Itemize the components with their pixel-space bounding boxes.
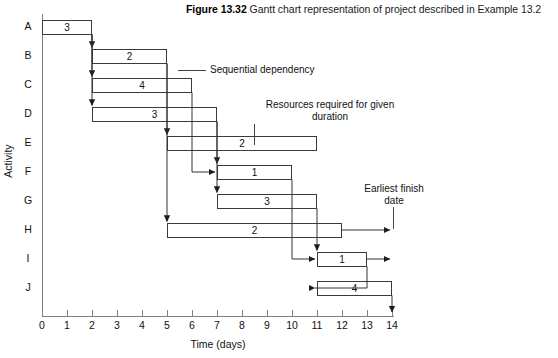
x-tick-6 xyxy=(192,310,193,316)
x-tick-13 xyxy=(367,310,368,316)
x-tick-label-9: 9 xyxy=(255,319,279,331)
x-tick-9 xyxy=(267,310,268,316)
x-tick-label-5: 5 xyxy=(155,319,179,331)
x-tick-label-1: 1 xyxy=(55,319,79,331)
y-axis-title: Activity xyxy=(2,131,14,191)
activity-label-d: D xyxy=(20,107,36,119)
gantt-bar-resources-g: 3 xyxy=(218,195,316,208)
earliest-finish-line1: Earliest finish xyxy=(364,183,423,194)
gantt-bar-c[interactable]: 4 xyxy=(92,78,192,93)
gantt-bar-f[interactable]: 1 xyxy=(217,165,292,180)
gantt-bar-h[interactable]: 2 xyxy=(167,223,342,238)
x-axis-title: Time (days) xyxy=(0,338,436,350)
resources-required-line2: duration xyxy=(312,111,348,122)
sequential-dependency-label: Sequential dependency xyxy=(210,64,315,75)
gantt-bar-resources-d: 3 xyxy=(93,108,216,121)
activity-label-c: C xyxy=(20,78,36,90)
earliest-finish-label: Earliest finish date xyxy=(343,183,445,207)
x-tick-label-2: 2 xyxy=(80,319,104,331)
resources-required-line1: Resources required for given xyxy=(266,99,394,110)
x-tick-label-10: 10 xyxy=(280,319,304,331)
x-tick-0 xyxy=(42,310,43,316)
x-tick-11 xyxy=(317,310,318,316)
gantt-bar-d[interactable]: 3 xyxy=(92,107,217,122)
x-tick-12 xyxy=(342,310,343,316)
activity-label-g: G xyxy=(20,194,36,206)
resources-required-label: Resources required for given duration xyxy=(246,99,414,123)
x-tick-label-8: 8 xyxy=(230,319,254,331)
gantt-bar-resources-c: 4 xyxy=(93,79,191,92)
gantt-bar-a[interactable]: 3 xyxy=(42,20,92,35)
plot-area: Activity Time (days) 0123456789101112131… xyxy=(0,0,558,358)
x-tick-2 xyxy=(92,310,93,316)
x-tick-4 xyxy=(142,310,143,316)
x-tick-3 xyxy=(117,310,118,316)
x-axis-line xyxy=(42,316,394,317)
gantt-bar-b[interactable]: 2 xyxy=(92,49,167,64)
gantt-bar-j[interactable]: 4 xyxy=(317,281,392,296)
gantt-figure: Figure 13.32 Gantt chart representation … xyxy=(0,0,558,358)
x-tick-label-14: 14 xyxy=(380,319,404,331)
x-tick-label-7: 7 xyxy=(205,319,229,331)
sequential-dependency-leader xyxy=(178,70,206,71)
gantt-bar-resources-j: 4 xyxy=(318,282,391,295)
link-c-f xyxy=(192,93,215,173)
activity-label-j: J xyxy=(20,281,36,293)
earliest-finish-line2: date xyxy=(384,195,403,206)
gantt-bar-resources-h: 2 xyxy=(168,224,341,237)
gantt-bar-resources-i: 1 xyxy=(318,253,366,266)
gantt-bar-resources-f: 1 xyxy=(218,166,291,179)
link-f-i xyxy=(292,180,315,260)
y-axis-line xyxy=(42,14,43,316)
x-tick-label-0: 0 xyxy=(30,319,54,331)
activity-label-a: A xyxy=(20,20,36,32)
activity-label-b: B xyxy=(20,49,36,61)
x-tick-10 xyxy=(292,310,293,316)
x-tick-14 xyxy=(392,310,393,316)
activity-label-e: E xyxy=(20,136,36,148)
gantt-bar-resources-e: 2 xyxy=(168,137,316,150)
activity-label-h: H xyxy=(20,223,36,235)
x-tick-label-4: 4 xyxy=(130,319,154,331)
gantt-bar-g[interactable]: 3 xyxy=(217,194,317,209)
x-tick-label-12: 12 xyxy=(330,319,354,331)
gantt-bar-e[interactable]: 2 xyxy=(167,136,317,151)
earliest-finish-leader xyxy=(393,207,394,229)
resources-required-leader xyxy=(254,124,255,145)
activity-label-f: F xyxy=(20,165,36,177)
activity-label-i: I xyxy=(20,252,36,264)
x-tick-1 xyxy=(67,310,68,316)
x-tick-label-11: 11 xyxy=(305,319,329,331)
gantt-bar-resources-a: 3 xyxy=(43,21,91,34)
x-tick-7 xyxy=(217,310,218,316)
x-tick-5 xyxy=(167,310,168,316)
gantt-bar-resources-b: 2 xyxy=(93,50,166,63)
x-tick-label-3: 3 xyxy=(105,319,129,331)
x-tick-8 xyxy=(242,310,243,316)
x-tick-label-6: 6 xyxy=(180,319,204,331)
x-tick-label-13: 13 xyxy=(355,319,379,331)
gantt-bar-i[interactable]: 1 xyxy=(317,252,367,267)
